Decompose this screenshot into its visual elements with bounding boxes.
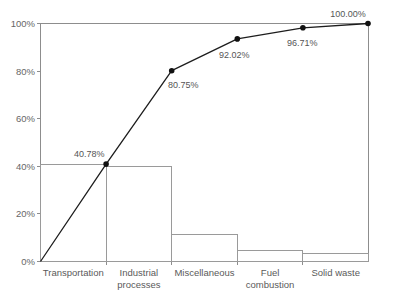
x-label-industrial-processes-line1: Industrial (120, 267, 159, 278)
chart-canvas: 100% 80% 60% 40% 20% 0% (0, 0, 399, 298)
y-tick-label-100: 100% (11, 18, 36, 29)
x-label-miscellaneous: Miscellaneous (174, 267, 234, 278)
cumulative-line (41, 24, 369, 262)
plot-frame (40, 24, 369, 262)
data-label-industrial-processes: 80.75% (168, 80, 199, 90)
x-label-fuel-combustion-line1: Fuel (261, 267, 279, 278)
x-axis-ticks (106, 262, 303, 266)
x-label-solid-waste: Solid waste (311, 267, 360, 278)
y-axis-ticks (37, 24, 40, 262)
bar-industrial-processes (106, 166, 172, 261)
x-axis-category-labels: Transportation Industrial processes Misc… (43, 267, 360, 290)
cumulative-point-fuel-combustion (300, 25, 306, 31)
bar-miscellaneous (172, 235, 238, 262)
cumulative-point-industrial-processes (169, 68, 175, 74)
y-tick-label-80: 80% (16, 66, 36, 77)
data-label-miscellaneous: 92.02% (219, 50, 250, 60)
cumulative-line-series (41, 21, 371, 262)
y-axis-tick-labels: 100% 80% 60% 40% 20% 0% (11, 18, 36, 267)
data-point-labels: 40.78% 80.75% 92.02% 96.71% 100.00% (74, 9, 366, 159)
cumulative-point-solid-waste (365, 21, 371, 27)
cumulative-point-miscellaneous (235, 36, 241, 42)
bar-solid-waste (303, 254, 369, 262)
y-tick-label-40: 40% (16, 161, 36, 172)
bar-fuel-combustion (237, 250, 303, 261)
x-label-industrial-processes-line2: processes (117, 279, 161, 290)
x-label-transportation: Transportation (43, 267, 104, 278)
pareto-chart: 100% 80% 60% 40% 20% 0% (0, 0, 399, 298)
y-tick-label-0: 0% (21, 256, 35, 267)
y-tick-label-20: 20% (16, 208, 36, 219)
data-label-transportation: 40.78% (74, 149, 105, 159)
cumulative-point-transportation (103, 161, 109, 167)
y-tick-label-60: 60% (16, 113, 36, 124)
data-label-solid-waste: 100.00% (330, 9, 366, 19)
bar-series (41, 164, 369, 261)
data-label-fuel-combustion: 96.71% (287, 38, 318, 48)
x-label-fuel-combustion-line2: combustion (246, 279, 295, 290)
